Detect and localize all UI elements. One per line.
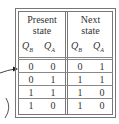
table-cell: 0 — [43, 61, 63, 73]
header-divider — [18, 59, 113, 60]
table-cell: 0 — [92, 100, 112, 112]
table-cell: 1 — [70, 74, 90, 86]
next-state-header: Next state — [68, 14, 113, 36]
table-cell: 1 — [70, 87, 90, 99]
table-cell: 0 — [43, 100, 63, 112]
table-cell: 1 — [43, 87, 63, 99]
col-header-qb-next: QB — [71, 40, 82, 53]
col-header-qa-present: QA — [44, 40, 55, 53]
table-cell: 1 — [70, 100, 90, 112]
col-header-qb-present: QB — [22, 40, 33, 53]
table-cell: 1 — [43, 74, 63, 86]
table-cell: 1 — [92, 61, 112, 73]
table-cell: 1 — [21, 100, 41, 112]
header-divider — [18, 57, 113, 58]
column-divider — [65, 11, 66, 115]
col-header-qa-next: QA — [93, 40, 104, 53]
present-state-header: Present state — [19, 14, 65, 36]
table-cell: 1 — [92, 74, 112, 86]
table-cell: 0 — [70, 61, 90, 73]
table-cell: 1 — [21, 87, 41, 99]
state-circle-edge — [5, 98, 9, 118]
table-cell: 0 — [21, 74, 41, 86]
table-cell: 0 — [21, 61, 41, 73]
table-cell: 0 — [92, 87, 112, 99]
